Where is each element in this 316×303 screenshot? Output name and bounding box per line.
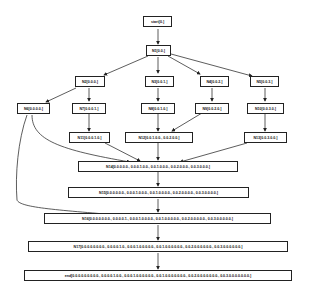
node-n2: N2[0.0.0.]: [75, 76, 105, 87]
node-n5: N5[0.0.3.]: [250, 76, 279, 87]
node-n1: N1[0.0.]: [146, 45, 171, 56]
node-n16: N16[0.0.0.0.0.0.0., 0.0.0.0.1., 0.0.0.1.…: [44, 213, 271, 224]
node-n17: N17[0.0.0.0.0.0.0.0., 0.0.0.0.1.0., 0.0.…: [28, 241, 288, 252]
node-n13: N13[0.0.3.0.0.]: [244, 132, 287, 143]
node-n15: N15[0.0.0.0.0.0., 0.0.0.1.0.0.0., 0.0.1.…: [68, 187, 249, 198]
node-start: start[0.]: [143, 16, 172, 27]
node-n3: N3[0.0.1.]: [145, 76, 174, 87]
node-end: end[0.0.0.0.0.0.0.0.0., 0.0.0.0.1.0.0., …: [24, 270, 292, 281]
node-n8: N8[0.0.1.0.]: [141, 103, 175, 114]
node-n12: N12[0.0.1.0.0., 0.0.2.0.0.]: [125, 132, 193, 143]
node-n11: N11[0.0.0.1.0.]: [69, 132, 110, 143]
node-n6: N6[0.0.0.0.]: [17, 103, 50, 114]
node-n14: N14[0.0.0.0.0., 0.0.0.1.0.0., 0.0.1.0.0.…: [78, 161, 238, 172]
node-n9: N9[0.0.2.0.]: [195, 103, 229, 114]
node-n10: N10[0.0.3.0.]: [247, 103, 284, 114]
node-n4: N4[0.0.2.]: [200, 76, 229, 87]
node-n7: N7[0.0.0.1.]: [72, 103, 106, 114]
